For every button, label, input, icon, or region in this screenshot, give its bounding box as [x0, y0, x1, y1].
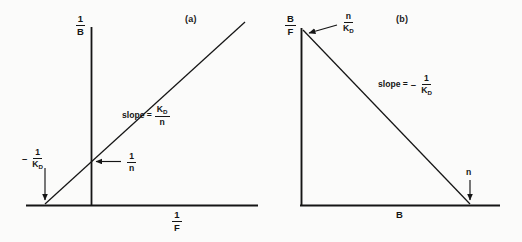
panel-b-data-line — [303, 30, 470, 204]
panel-a-slope-denominator: n — [158, 117, 167, 127]
panel-a-y-axis-numerator: 1 — [76, 14, 85, 26]
panel-a-slope-annotation: slope = KD n — [122, 105, 170, 127]
panel-a-x-intercept-denominator: KD — [30, 159, 45, 170]
panel-b-x-axis-label: B — [396, 210, 403, 220]
panel-b-slope-annotation: slope = – 1 KD — [378, 74, 434, 96]
panel-a-x-intercept-fraction: 1 KD — [30, 148, 45, 170]
panel-a-y-axis-label: 1 B — [75, 14, 86, 36]
panel-b-slope-sign: – — [411, 80, 416, 90]
panel-b-y-intercept-numerator: n — [344, 12, 353, 23]
panel-a-x-intercept-denominator-sub: D — [39, 162, 43, 169]
panel-a-y-intercept-numerator: 1 — [127, 152, 136, 163]
panel-a-y-intercept-fraction: 1 n — [127, 152, 136, 172]
panel-b-slope-denominator: KD — [419, 85, 434, 96]
panel-b-y-intercept-denominator: KD — [341, 23, 356, 34]
panel-b-y-intercept-label: n KD — [341, 12, 356, 34]
panel-a-x-axis-fraction: 1 F — [172, 210, 182, 232]
panel-a-y-axis-denominator: B — [75, 26, 86, 37]
panel-b-y-axis-label: B F — [285, 14, 296, 36]
panel-a-x-axis-denominator: F — [172, 222, 182, 233]
binding-plots-figure: (a) 1 B 1 F slope = KD n – 1 KD — [0, 0, 522, 242]
panel-a-y-intercept-label: 1 n — [127, 152, 136, 172]
panel-a-x-intercept-label: – 1 KD — [22, 148, 45, 170]
panel-b-y-intercept-denominator-sub: D — [349, 26, 353, 33]
panel-a-slope-numerator: KD — [155, 105, 170, 117]
panel-b-label: (b) — [396, 14, 408, 24]
panel-b-slope-denominator-sub: D — [427, 88, 431, 95]
panel-a-slope-numerator-sub: D — [163, 108, 167, 115]
panel-b-y-axis-fraction: B F — [285, 14, 296, 36]
panel-b-y-intercept-fraction: n KD — [341, 12, 356, 34]
panel-a-x-intercept-numerator: 1 — [33, 148, 42, 159]
panel-b-y-axis-numerator: B — [285, 14, 296, 26]
panel-a-slope-prefix: slope = — [122, 111, 152, 120]
panel-b-x-intercept-label: n — [466, 168, 471, 177]
panel-a-x-axis-numerator: 1 — [172, 210, 181, 222]
panel-b-slope-numerator: 1 — [422, 74, 431, 85]
panel-a-x-intercept-sign: – — [22, 154, 27, 164]
panel-b-y-axis-denominator: F — [286, 26, 296, 37]
panel-b-axes — [300, 28, 500, 206]
panel-b-slope-prefix: slope = — [378, 80, 408, 89]
panel-a-y-intercept-denominator: n — [127, 163, 136, 173]
panel-b-y-intercept-arrow — [309, 25, 337, 33]
panel-a-x-axis-label: 1 F — [172, 210, 182, 232]
panel-a-y-axis-fraction: 1 B — [75, 14, 86, 36]
panel-b-slope-fraction: 1 KD — [419, 74, 434, 96]
panel-a-label: (a) — [185, 14, 197, 24]
panel-a-slope-fraction: KD n — [155, 105, 170, 127]
